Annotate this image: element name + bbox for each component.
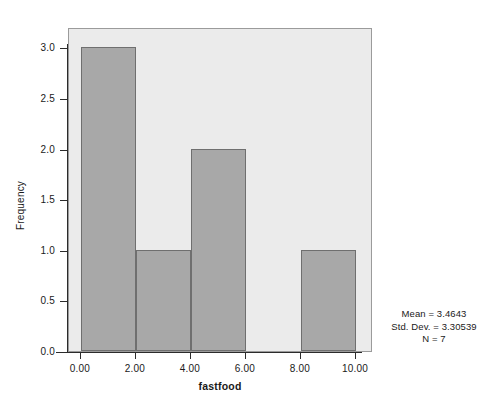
x-tick-label: 4.00 [160,364,220,374]
x-tick-mark [300,352,301,359]
x-tick-mark [355,352,356,359]
plot-area [68,28,372,352]
y-axis-line [67,44,68,353]
y-tick-mark [60,150,67,151]
y-tick-mark [60,301,67,302]
x-tick-label: 0.00 [50,364,110,374]
x-axis-title: fastfood [68,380,372,392]
x-tick-label: 10.00 [325,364,385,374]
y-axis-title: Frequency [14,216,28,230]
histogram-chart: 0.00.51.01.52.02.53.0 0.002.004.006.008.… [0,0,492,409]
histogram-bar [191,149,246,352]
x-tick-mark [80,352,81,359]
x-tick-mark [245,352,246,359]
y-tick-mark [60,200,67,201]
x-tick-label: 8.00 [270,364,330,374]
y-tick-mark [60,48,67,49]
x-tick-mark [135,352,136,359]
y-tick-label: 0.0 [40,347,55,357]
histogram-bar [81,47,136,351]
y-tick-mark [60,352,67,353]
y-tick-label: 2.0 [40,145,55,155]
y-tick-mark [60,251,67,252]
histogram-bar [301,250,356,351]
bars-container [69,29,371,351]
stat-n: N = 7 [378,333,490,346]
y-tick-label: 2.5 [40,94,55,104]
x-axis-line [56,352,362,353]
stat-mean: Mean = 3.4643 [378,308,490,321]
y-tick-label: 1.0 [40,246,55,256]
y-tick-label: 3.0 [40,43,55,53]
y-tick-label: 0.5 [40,296,55,306]
x-tick-label: 2.00 [105,364,165,374]
statistics-annotation: Mean = 3.4643 Std. Dev. = 3.30539 N = 7 [378,308,490,346]
y-tick-label: 1.5 [40,195,55,205]
histogram-bar [136,250,191,351]
x-tick-label: 6.00 [215,364,275,374]
stat-stddev: Std. Dev. = 3.30539 [378,321,490,334]
y-tick-mark [60,99,67,100]
x-tick-mark [190,352,191,359]
